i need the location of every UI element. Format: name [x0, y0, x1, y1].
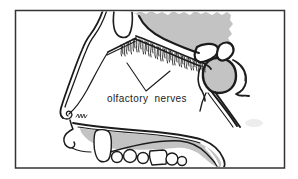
tooth [166, 153, 178, 165]
tooth-incisor [94, 130, 111, 162]
head-sagittal-diagram: olfactory nerves [0, 0, 298, 179]
frontal-sinus [113, 11, 132, 37]
paper-smudge [245, 119, 263, 127]
tooth-molar [150, 150, 167, 165]
tooth [178, 157, 187, 166]
diagram-page: olfactory nerves [0, 0, 298, 179]
tooth [112, 152, 123, 163]
tooth [138, 153, 149, 164]
tooth [124, 150, 137, 163]
olfactory-nerves-label: olfactory nerves [107, 93, 187, 104]
sphenoid-sinus [203, 58, 236, 93]
